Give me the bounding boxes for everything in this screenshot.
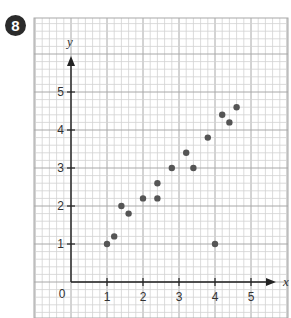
y-axis-label: y	[65, 34, 73, 49]
data-point	[125, 210, 131, 216]
x-tick-label: 4	[212, 290, 219, 304]
x-tick-label: 2	[140, 290, 147, 304]
data-point	[154, 180, 160, 186]
origin-label: 0	[59, 287, 66, 301]
x-axis-arrow-icon	[266, 278, 276, 286]
y-tick-label: 1	[57, 237, 64, 251]
data-point	[118, 203, 124, 209]
data-point	[212, 241, 218, 247]
scatter-chart: xy 12345123450	[0, 0, 291, 318]
data-point	[104, 241, 110, 247]
data-point	[190, 165, 196, 171]
data-point	[226, 119, 232, 125]
data-point	[154, 195, 160, 201]
data-point	[183, 150, 189, 156]
axes: xy	[65, 34, 289, 289]
data-point	[219, 112, 225, 118]
x-tick-label: 3	[176, 290, 183, 304]
data-point	[169, 165, 175, 171]
y-tick-label: 4	[57, 123, 64, 137]
data-point	[205, 134, 211, 140]
tick-labels: 12345123450	[57, 85, 254, 304]
data-point	[233, 104, 239, 110]
x-axis-label: x	[282, 274, 289, 289]
x-tick-label: 5	[248, 290, 255, 304]
x-tick-label: 1	[104, 290, 111, 304]
data-point	[111, 233, 117, 239]
y-tick-label: 2	[57, 199, 64, 213]
y-tick-label: 5	[57, 85, 64, 99]
data-point	[140, 195, 146, 201]
y-axis-arrow-icon	[67, 56, 75, 66]
y-tick-label: 3	[57, 161, 64, 175]
